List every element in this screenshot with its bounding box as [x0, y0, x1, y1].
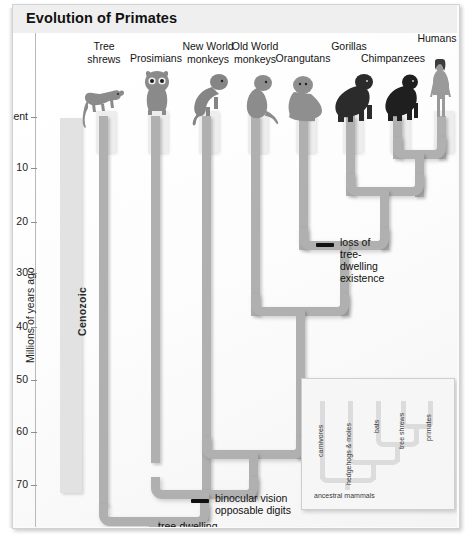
taxon-label-chimpanzees: Chimpanzees	[354, 52, 432, 65]
figure-title: Evolution of Primates	[26, 10, 177, 26]
branch-tree-shrews	[99, 116, 108, 506]
silhouette-human	[427, 59, 455, 121]
taxon-label-orangutans: Orangutans	[269, 52, 337, 65]
silhouette-prosimian	[137, 67, 177, 117]
annotation-loss-of-tree-dwelling: loss of tree- dwelling existence	[340, 236, 384, 284]
branch-new-world-monkeys	[202, 116, 211, 491]
y-tick-10: 10	[13, 161, 37, 173]
y-tick-20: 20	[13, 215, 37, 227]
y-tick-60: 60	[13, 425, 37, 437]
silhouette-orangutan	[281, 73, 331, 125]
branch-old-world-monkeys	[251, 116, 260, 316]
inset-label-tree-shrews: tree shrews	[398, 413, 405, 449]
taxon-label-gorillas: Gorillas	[321, 40, 377, 53]
y-tick-50: 50	[13, 373, 37, 385]
era-bar-cenozoic: Cenozoic	[60, 118, 82, 493]
inset-label-bats: bats	[373, 420, 380, 433]
silhouette-gorilla	[326, 69, 378, 125]
annotation-tree-dwelling: tree-dwelling existence	[158, 520, 218, 527]
y-tick-70: 70	[13, 478, 37, 490]
inset-label-ancestral-mammals: ancestral mammals	[314, 492, 375, 499]
inset-mammal-cladogram: carnivores hedgehogs & moles bats tree s…	[301, 378, 455, 510]
silhouette-new-world-monkey	[186, 69, 234, 127]
silhouette-tree-shrew	[79, 75, 125, 129]
y-tick-present: Present	[13, 110, 37, 122]
chart-canvas: Present 10 20 30 40 50 60 70 Millions of…	[13, 33, 457, 527]
annotation-dash-loss-of-tree-dwelling	[316, 243, 334, 247]
inset-label-carnivores: carnivores	[317, 425, 324, 457]
branch-prosimians	[151, 116, 160, 463]
taxon-label-humans: Humans	[411, 33, 457, 45]
annotation-dash-binocular-vision	[191, 499, 209, 503]
figure-evolution-of-primates: Evolution of Primates Present 10 20 30 4…	[0, 0, 465, 547]
era-bar-label: Cenozoic	[76, 287, 88, 336]
silhouette-old-world-monkey	[235, 71, 283, 126]
inset-label-primates: primates	[425, 414, 432, 441]
inset-label-hedgehogs-moles: hedgehogs & moles	[345, 423, 352, 485]
stem-root	[149, 520, 158, 527]
y-axis-label: Millions of years ago	[24, 267, 36, 363]
annotation-binocular-vision: binocular vision opposable digits	[215, 492, 291, 516]
silhouette-chimpanzee	[375, 71, 423, 123]
